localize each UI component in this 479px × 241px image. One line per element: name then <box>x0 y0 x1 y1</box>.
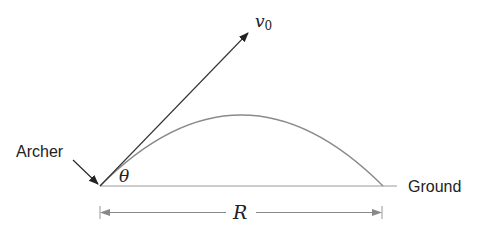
trajectory-curve <box>100 115 383 186</box>
range-label: R <box>232 201 247 223</box>
ground-label: Ground <box>408 178 461 195</box>
velocity-symbol: v <box>255 11 265 31</box>
angle-label: θ <box>119 166 129 186</box>
velocity-vector-arrow <box>100 33 248 186</box>
velocity-subscript: 0 <box>265 19 273 33</box>
velocity-label: v0 <box>255 11 272 33</box>
projectile-diagram: Archer Ground θ R v0 <box>0 0 479 241</box>
archer-label: Archer <box>16 143 64 160</box>
archer-pointer-arrow <box>73 160 98 184</box>
